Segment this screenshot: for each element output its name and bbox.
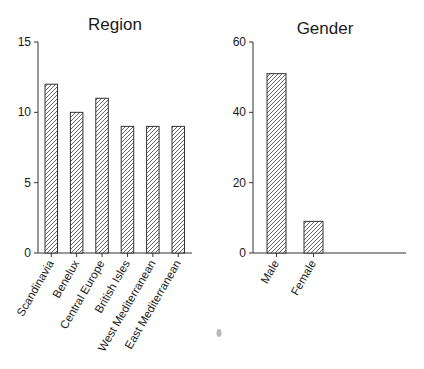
- scan-artifact-smudge: [217, 329, 222, 337]
- y-tick-label: 0: [24, 246, 31, 260]
- region-category-labels: ScandinaviaBeneluxCentral EuropeBritish …: [14, 257, 183, 353]
- gender-bars: [267, 74, 323, 253]
- gender-bar-chart: Gender 0204060 MaleFemale: [233, 19, 406, 297]
- x-category-label: Male: [258, 258, 281, 286]
- y-tick-label: 0: [239, 246, 246, 260]
- region-bars: [45, 84, 185, 253]
- y-tick-label: 40: [233, 105, 247, 119]
- y-tick-label: 60: [233, 35, 247, 49]
- bar: [70, 112, 83, 253]
- bar: [304, 221, 323, 253]
- gender-category-labels: MaleFemale: [258, 258, 318, 297]
- bar: [45, 84, 58, 253]
- bar: [121, 126, 134, 253]
- x-category-label: Female: [289, 258, 319, 297]
- x-category-label: Scandinavia: [14, 257, 56, 318]
- bar: [147, 126, 160, 253]
- region-bar-chart: Region 051015 ScandinaviaBeneluxCentral …: [14, 15, 192, 353]
- bar: [267, 74, 286, 253]
- bar: [172, 126, 185, 253]
- y-tick-label: 15: [18, 35, 32, 49]
- bar: [96, 98, 109, 253]
- y-tick-label: 5: [24, 176, 31, 190]
- chart-canvas: Region 051015 ScandinaviaBeneluxCentral …: [0, 0, 424, 369]
- y-tick-label: 10: [18, 105, 32, 119]
- y-tick-label: 20: [233, 176, 247, 190]
- gender-chart-title: Gender: [297, 19, 354, 38]
- region-chart-title: Region: [88, 15, 142, 34]
